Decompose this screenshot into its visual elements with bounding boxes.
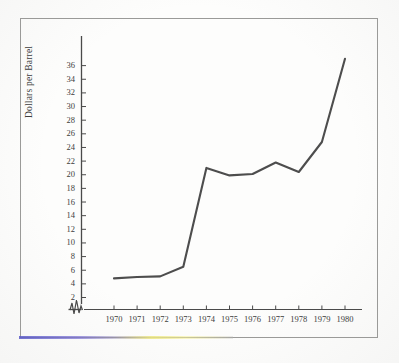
y-axis-tick-label: 22 — [55, 157, 75, 166]
y-axis-tick-label: 16 — [55, 198, 75, 207]
y-axis-tick-label: 26 — [55, 129, 75, 138]
y-axis-tick-label: 2 — [55, 293, 75, 302]
y-axis-tick-label: 24 — [55, 143, 75, 152]
y-axis-tick-label: 32 — [55, 88, 75, 97]
y-axis-tick-label: 36 — [55, 61, 75, 70]
y-axis-tick-label: 10 — [55, 238, 75, 247]
y-axis-tick-label: 14 — [55, 211, 75, 220]
y-axis-tick-label: 18 — [55, 184, 75, 193]
y-axis-tick-label: 8 — [55, 252, 75, 261]
y-axis-tick-label: 30 — [55, 102, 75, 111]
chart-page: Dollars per Barrel 246810121416182022242… — [0, 0, 399, 363]
y-axis-tick-label: 12 — [55, 225, 75, 234]
y-axis-tick-label: 4 — [55, 279, 75, 288]
y-axis-title: Dollars per Barrel — [24, 8, 34, 118]
y-axis-tick-label: 20 — [55, 170, 75, 179]
y-axis-tick-label: 34 — [55, 75, 75, 84]
x-axis-tick-label: 1980 — [330, 315, 360, 324]
y-axis-tick-label: 28 — [55, 116, 75, 125]
y-axis-tick-label: 6 — [55, 266, 75, 275]
